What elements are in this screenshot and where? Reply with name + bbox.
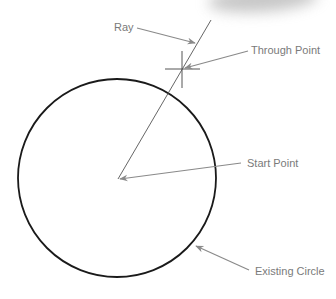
through-point-marker xyxy=(165,51,200,88)
existing-circle-leader-arrow xyxy=(196,246,249,270)
ray-line xyxy=(118,20,211,179)
through-point-leader-arrow xyxy=(185,51,248,68)
through-point-label: Through Point xyxy=(251,44,320,56)
ray-label: Ray xyxy=(114,21,134,33)
start-point-leader-arrow xyxy=(120,163,241,179)
diagram-canvas: Ray Through Point Start Point Existing C… xyxy=(0,0,336,299)
existing-circle-label: Existing Circle xyxy=(255,265,325,277)
ray-leader-arrow xyxy=(137,28,195,43)
existing-circle xyxy=(18,79,216,277)
start-point-label: Start Point xyxy=(247,157,298,169)
